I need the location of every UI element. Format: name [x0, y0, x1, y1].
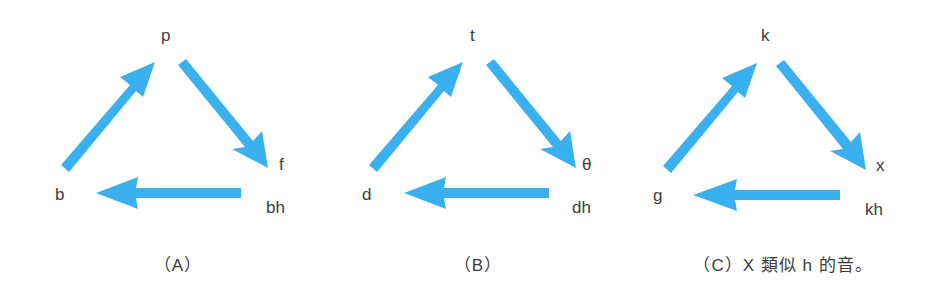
panel-c: k x kh g （C）X 類似 h 的音。	[600, 0, 920, 299]
node-right-label: x	[876, 157, 885, 174]
node-top-label: p	[161, 27, 170, 44]
arrow-up-right-icon	[663, 63, 757, 173]
node-right-label: θ	[582, 156, 591, 173]
arrow-left-icon	[404, 177, 549, 209]
arrow-up-right-icon	[61, 62, 155, 172]
cycle-arrows	[600, 0, 920, 299]
node-left-label: b	[55, 186, 64, 203]
node-top-label: t	[470, 27, 475, 44]
node-right-bottom-label: bh	[266, 199, 285, 216]
panel-a: p f bh b （A）	[0, 0, 320, 299]
panel-caption: （B）	[454, 257, 502, 274]
node-right-label: f	[279, 156, 284, 173]
node-left-label: d	[362, 186, 371, 203]
node-right-bottom-label: kh	[865, 201, 883, 218]
node-left-label: g	[653, 187, 662, 204]
cycle-arrows	[306, 0, 626, 299]
panel-caption: （A）	[154, 257, 202, 274]
arrow-down-right-icon	[486, 59, 576, 168]
arrow-left-icon	[96, 177, 241, 209]
node-right-bottom-label: dh	[572, 199, 591, 216]
node-top-label: k	[761, 27, 770, 44]
cycle-arrows	[0, 0, 320, 299]
arrow-down-right-icon	[776, 60, 866, 170]
arrow-up-right-icon	[369, 62, 463, 172]
arrow-left-icon	[693, 179, 840, 211]
panel-b: t θ dh d （B）	[306, 0, 626, 299]
panel-caption: （C）X 類似 h 的音。	[693, 257, 872, 274]
arrow-down-right-icon	[178, 59, 268, 168]
